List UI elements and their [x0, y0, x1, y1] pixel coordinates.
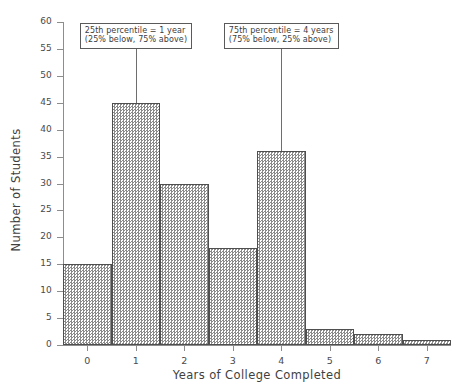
x-tick-mark — [330, 345, 331, 351]
x-tick-label: 2 — [169, 355, 199, 366]
x-tick-label: 7 — [412, 355, 442, 366]
y-tick-mark — [57, 76, 63, 77]
histogram-bar — [403, 340, 452, 345]
y-tick-mark — [57, 210, 63, 211]
y-tick-label: 45 — [12, 97, 52, 107]
percentile-callout-box: 25th percentile = 1 year(25% below, 75% … — [80, 23, 192, 49]
x-tick-mark — [427, 345, 428, 351]
x-tick-label: 6 — [363, 355, 393, 366]
y-tick-label: 10 — [12, 285, 52, 295]
y-tick-label: 60 — [12, 16, 52, 26]
percentile-callout-line2: (25% below, 75% above) — [85, 35, 187, 45]
histogram-bar — [354, 334, 403, 345]
x-tick-label: 5 — [315, 355, 345, 366]
y-tick-mark — [57, 237, 63, 238]
percentile-callout-line2: (75% below, 25% above) — [229, 35, 334, 45]
x-tick-label: 3 — [218, 355, 248, 366]
x-tick-label: 0 — [72, 355, 102, 366]
x-axis-title: Years of College Completed — [63, 368, 451, 382]
histogram-chart: 051015202530354045505560 01234567 25th p… — [0, 0, 458, 389]
histogram-bar — [257, 151, 306, 345]
percentile-callout-box: 75th percentile = 4 years(75% below, 25%… — [224, 23, 339, 49]
x-axis-line — [63, 345, 451, 346]
x-tick-label: 1 — [121, 355, 151, 366]
y-tick-mark — [57, 22, 63, 23]
percentile-callout-line1: 25th percentile = 1 year — [85, 26, 187, 36]
histogram-bar — [306, 329, 355, 345]
x-tick-mark — [281, 345, 282, 351]
y-tick-label: 50 — [12, 70, 52, 80]
x-tick-label: 4 — [266, 355, 296, 366]
y-tick-mark — [57, 130, 63, 131]
y-tick-mark — [57, 184, 63, 185]
y-tick-label: 0 — [12, 339, 52, 349]
x-tick-mark — [184, 345, 185, 351]
y-tick-mark — [57, 157, 63, 158]
y-axis-title: Number of Students — [9, 110, 23, 270]
y-tick-mark — [57, 49, 63, 50]
x-tick-mark — [378, 345, 379, 351]
x-tick-mark — [136, 345, 137, 351]
y-tick-mark — [57, 103, 63, 104]
percentile-marker-line — [136, 49, 137, 103]
x-tick-mark — [87, 345, 88, 351]
histogram-bar — [63, 264, 112, 345]
x-tick-mark — [233, 345, 234, 351]
percentile-marker-line — [281, 49, 282, 151]
y-tick-label: 55 — [12, 43, 52, 53]
histogram-bar — [209, 248, 258, 345]
histogram-bar — [112, 103, 161, 345]
histogram-bar — [160, 184, 209, 346]
percentile-callout-line1: 75th percentile = 4 years — [229, 26, 334, 36]
y-tick-label: 5 — [12, 312, 52, 322]
y-tick-mark — [57, 345, 63, 346]
